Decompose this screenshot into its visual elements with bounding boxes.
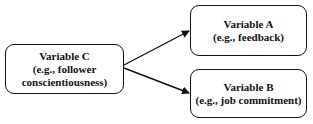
node-title: Variable B bbox=[223, 81, 273, 94]
node-example: (e.g., follower bbox=[33, 63, 97, 76]
node-variable-c: Variable C (e.g., follower conscientious… bbox=[5, 44, 124, 94]
node-variable-a: Variable A (e.g., feedback) bbox=[190, 5, 307, 56]
node-title: Variable A bbox=[223, 18, 273, 31]
node-example-cont: conscientiousness) bbox=[22, 76, 108, 89]
arrow-c-to-b bbox=[124, 68, 189, 93]
node-example: (e.g., feedback) bbox=[213, 31, 284, 44]
arrow-c-to-a bbox=[124, 31, 189, 65]
node-example: (e.g., job commitment) bbox=[196, 94, 302, 107]
node-title: Variable C bbox=[39, 50, 90, 63]
node-variable-b: Variable B (e.g., job commitment) bbox=[190, 69, 307, 118]
